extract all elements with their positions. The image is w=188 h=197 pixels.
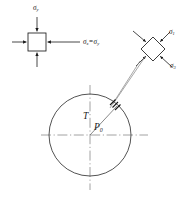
label-sigma-x-equals-sigma-y: σx=σy	[83, 39, 99, 47]
figure-canvas	[0, 0, 188, 197]
leader-line-upper	[113, 57, 145, 104]
label-sigma-y: σy	[33, 5, 39, 13]
stress-field-figure: σy σx=σy σ1 σ3 T P0	[0, 0, 188, 197]
diamond-arrow-upper-left	[133, 31, 146, 42]
label-radius-T: T	[83, 112, 88, 122]
diamond-stress-element	[133, 31, 172, 67]
label-sigma-3: σ3	[170, 63, 176, 71]
tunnel-centerlines	[41, 85, 148, 190]
square-stress-element	[12, 17, 80, 67]
label-point-p0: P0	[94, 123, 103, 134]
label-sigma-1: σ1	[169, 29, 175, 37]
square-element-body	[28, 33, 46, 51]
